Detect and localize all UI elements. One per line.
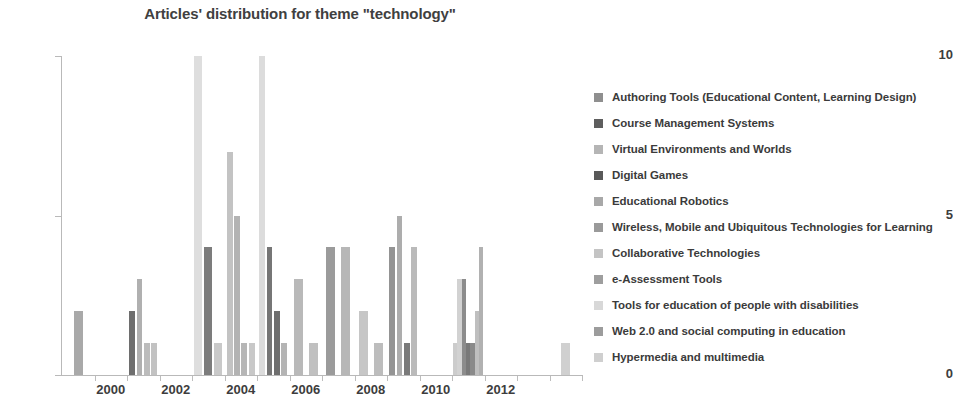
x-axis-tick-mark — [290, 376, 291, 381]
legend-swatch-icon — [594, 275, 603, 284]
legend-item[interactable]: Authoring Tools (Educational Content, Le… — [594, 84, 944, 110]
bar — [144, 343, 150, 375]
bar — [137, 279, 143, 375]
legend-swatch-icon — [594, 223, 603, 232]
x-axis-tick-mark — [420, 376, 421, 381]
bar — [389, 247, 395, 375]
legend-item[interactable]: Web 2.0 and social computing in educatio… — [594, 318, 944, 344]
legend-item[interactable]: Course Management Systems — [594, 110, 944, 136]
y-axis-tick-label: 10 — [919, 47, 953, 62]
x-axis-tick-mark — [452, 376, 453, 381]
x-axis-tick-mark — [582, 376, 583, 381]
bar — [214, 343, 222, 375]
bar — [397, 216, 403, 376]
bar — [281, 343, 287, 375]
legend-item-label: Hypermedia and multimedia — [612, 351, 764, 363]
x-axis-tick-label: 2006 — [281, 382, 331, 397]
legend-swatch-icon — [594, 249, 603, 258]
bar — [561, 343, 570, 375]
bar — [234, 216, 240, 376]
legend-item-label: Educational Robotics — [612, 195, 729, 207]
bar — [309, 343, 318, 375]
bar — [227, 152, 233, 375]
legend-swatch-icon — [594, 171, 603, 180]
x-axis-tick-mark — [127, 376, 128, 381]
legend-swatch-icon — [594, 119, 603, 128]
legend-swatch-icon — [594, 327, 603, 336]
legend-item-label: Digital Games — [612, 169, 688, 181]
bar — [241, 343, 247, 375]
bar — [129, 311, 135, 375]
x-axis-tick-mark — [550, 376, 551, 381]
legend-item[interactable]: Wireless, Mobile and Ubiquitous Technolo… — [594, 214, 944, 240]
legend-item-label: e-Assessment Tools — [612, 273, 722, 285]
legend-item[interactable]: Virtual Environments and Worlds — [594, 136, 944, 162]
legend-item-label: Collaborative Technologies — [612, 247, 760, 259]
x-axis-tick-mark — [225, 376, 226, 381]
plot-area — [62, 56, 582, 375]
x-axis-tick-mark — [355, 376, 356, 381]
legend-item[interactable]: Collaborative Technologies — [594, 240, 944, 266]
bar — [404, 343, 410, 375]
legend-item-label: Tools for education of people with disab… — [612, 299, 859, 311]
x-axis-tick-mark — [517, 376, 518, 381]
bar — [151, 343, 157, 375]
bar — [411, 247, 417, 375]
x-axis-tick-mark — [160, 376, 161, 381]
x-axis-tick-label: 2012 — [476, 382, 526, 397]
bar — [374, 343, 383, 375]
legend-item[interactable]: Educational Robotics — [594, 188, 944, 214]
legend-item[interactable]: Hypermedia and multimedia — [594, 344, 944, 370]
bar — [204, 247, 212, 375]
bar — [267, 247, 273, 375]
legend-swatch-icon — [594, 197, 603, 206]
x-axis-tick-mark — [485, 376, 486, 381]
legend-item-label: Web 2.0 and social computing in educatio… — [612, 325, 846, 337]
bar — [274, 311, 280, 375]
bar — [359, 311, 368, 375]
bar — [479, 247, 484, 375]
legend-item-label: Course Management Systems — [612, 117, 774, 129]
x-axis-tick-mark — [257, 376, 258, 381]
legend-item[interactable]: e-Assessment Tools — [594, 266, 944, 292]
bar — [326, 247, 335, 375]
legend-item[interactable]: Digital Games — [594, 162, 944, 188]
bar — [259, 56, 265, 375]
x-axis-tick-mark — [322, 376, 323, 381]
legend-swatch-icon — [594, 145, 603, 154]
bar — [74, 311, 83, 375]
legend-swatch-icon — [594, 353, 603, 362]
legend-item-label: Authoring Tools (Educational Content, Le… — [612, 91, 916, 103]
x-axis-tick-label: 2008 — [346, 382, 396, 397]
x-axis-tick-label: 2002 — [151, 382, 201, 397]
x-axis-tick-mark — [387, 376, 388, 381]
x-axis-tick-mark — [95, 376, 96, 381]
x-axis-tick-label: 2010 — [411, 382, 461, 397]
legend-item-label: Wireless, Mobile and Ubiquitous Technolo… — [612, 221, 933, 233]
bar — [194, 56, 202, 375]
legend-swatch-icon — [594, 93, 603, 102]
x-axis-tick-label: 2004 — [216, 382, 266, 397]
chart-title: Articles' distribution for theme "techno… — [0, 5, 600, 22]
legend-item-label: Virtual Environments and Worlds — [612, 143, 792, 155]
legend-swatch-icon — [594, 301, 603, 310]
bar — [249, 343, 255, 375]
x-axis-tick-mark — [192, 376, 193, 381]
bar — [341, 247, 350, 375]
legend-item[interactable]: Tools for education of people with disab… — [594, 292, 944, 318]
chart-legend: Authoring Tools (Educational Content, Le… — [594, 84, 944, 370]
y-axis-tick-mark — [55, 216, 62, 217]
y-axis-tick-mark — [55, 56, 62, 57]
x-axis-tick-label: 2000 — [86, 382, 136, 397]
y-axis-tick-mark — [55, 375, 62, 376]
bar — [294, 279, 303, 375]
